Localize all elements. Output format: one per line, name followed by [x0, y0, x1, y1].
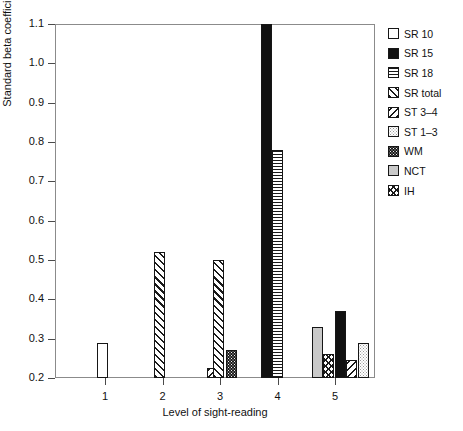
bar — [261, 24, 272, 378]
x-axis-label: Level of sight-reading — [55, 406, 375, 418]
legend-swatch-forward-hatch — [388, 87, 399, 98]
bar — [358, 343, 369, 378]
y-tick-label: 1.1 — [14, 18, 44, 29]
bar — [97, 343, 108, 378]
legend-swatch-white — [388, 28, 399, 39]
legend-item-label: SR 15 — [404, 47, 433, 59]
legend-swatch-cross-hatch — [388, 185, 399, 196]
legend-swatch-solid-black — [388, 48, 399, 59]
legend-item: SR 18 — [388, 63, 463, 83]
y-tick-mark — [48, 103, 55, 104]
x-tick-label: 3 — [208, 390, 232, 402]
y-tick-mark — [48, 24, 55, 25]
x-tick-mark — [335, 378, 336, 385]
legend: SR 10SR 15SR 18SR totalST 3–4ST 1–3WMNCT… — [388, 24, 463, 200]
bar — [335, 311, 346, 378]
bar — [312, 327, 323, 378]
y-tick-label: 0.5 — [14, 254, 44, 265]
y-tick-label: 0.2 — [14, 372, 44, 383]
y-tick-label: 0.8 — [14, 136, 44, 147]
legend-item: IH — [388, 181, 463, 201]
y-tick-mark — [48, 63, 55, 64]
x-tick-label: 4 — [266, 390, 290, 402]
x-tick-label: 2 — [151, 390, 175, 402]
legend-item-label: SR total — [404, 87, 441, 99]
bar — [213, 260, 224, 378]
x-tick-mark — [220, 378, 221, 385]
y-tick-mark — [48, 142, 55, 143]
x-tick-mark — [105, 378, 106, 385]
y-tick-label: 1.0 — [14, 57, 44, 68]
x-tick-label: 5 — [323, 390, 347, 402]
x-tick-mark — [278, 378, 279, 385]
bar — [323, 354, 334, 378]
y-tick-mark — [48, 299, 55, 300]
legend-item-label: SR 10 — [404, 28, 433, 40]
y-tick-label: 0.7 — [14, 175, 44, 186]
legend-item-label: ST 1–3 — [404, 126, 438, 138]
y-tick-label: 0.3 — [14, 333, 44, 344]
legend-item-label: WM — [404, 145, 423, 157]
legend-item: WM — [388, 142, 463, 162]
legend-item: SR 15 — [388, 44, 463, 64]
legend-item-label: NCT — [404, 165, 426, 177]
legend-swatch-back-hatch — [388, 107, 399, 118]
y-tick-mark — [48, 181, 55, 182]
y-tick-mark — [48, 221, 55, 222]
legend-item: ST 3–4 — [388, 102, 463, 122]
legend-item: ST 1–3 — [388, 122, 463, 142]
y-tick-label: 0.6 — [14, 215, 44, 226]
y-tick-mark — [48, 378, 55, 379]
legend-item: SR 10 — [388, 24, 463, 44]
y-tick-label: 0.9 — [14, 97, 44, 108]
y-tick-mark — [48, 260, 55, 261]
legend-item: SR total — [388, 83, 463, 103]
bar — [226, 350, 237, 378]
legend-swatch-horizontal-lines — [388, 67, 399, 78]
legend-swatch-gray — [388, 165, 399, 176]
legend-item-label: SR 18 — [404, 67, 433, 79]
figure-bar-chart: Standard beta coefficient 0.20.30.40.50.… — [0, 0, 463, 431]
y-tick-label: 0.4 — [14, 293, 44, 304]
bar — [346, 360, 357, 378]
bar — [154, 252, 165, 378]
bar — [272, 150, 283, 378]
y-tick-mark — [48, 339, 55, 340]
legend-swatch-light-dots — [388, 126, 399, 137]
legend-item-label: ST 3–4 — [404, 106, 438, 118]
legend-item: NCT — [388, 161, 463, 181]
x-tick-label: 1 — [93, 390, 117, 402]
legend-swatch-dark-dots — [388, 146, 399, 157]
y-axis-label: Standard beta coefficient — [0, 0, 15, 136]
x-tick-mark — [163, 378, 164, 385]
legend-item-label: IH — [404, 185, 415, 197]
